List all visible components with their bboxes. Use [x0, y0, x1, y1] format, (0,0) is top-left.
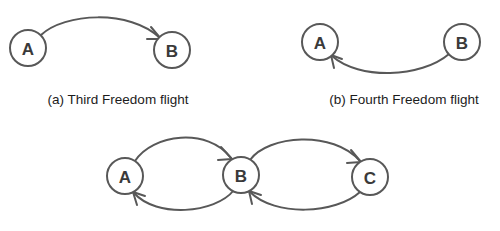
node-label: B: [235, 167, 247, 186]
node-a: A: [107, 158, 143, 194]
panel-b: A B (b) Fourth Freedom flight: [302, 24, 480, 107]
edge-b-to-a: [133, 190, 234, 210]
freedoms-of-the-air-diagram: A B (a) Third Freedom flight A B (b: [0, 0, 500, 231]
node-label: A: [119, 168, 131, 187]
node-a: A: [302, 24, 338, 60]
caption-panel-a: (a) Third Freedom flight: [48, 92, 189, 107]
node-b: B: [223, 157, 259, 193]
node-label: A: [314, 34, 326, 53]
edge-c-to-b: [249, 191, 360, 210]
node-label: C: [364, 169, 376, 188]
edge-curve: [250, 139, 360, 161]
caption-panel-b: (b) Fourth Freedom flight: [329, 92, 479, 107]
panel-c: A B C: [107, 138, 388, 210]
edge-b-to-c: [250, 139, 361, 163]
edge-a-to-b: [135, 138, 232, 161]
node-b: B: [444, 24, 480, 60]
edge-curve: [41, 17, 160, 38]
node-c: C: [352, 159, 388, 195]
edge-curve: [134, 190, 234, 210]
figure-container: A B (a) Third Freedom flight A B (b: [0, 0, 500, 231]
node-label: A: [22, 40, 34, 59]
arrowhead-icon: [218, 147, 232, 160]
panel-a: A B (a) Third Freedom flight: [10, 17, 190, 107]
edge-curve: [250, 192, 360, 210]
node-label: B: [166, 42, 178, 61]
node-a: A: [10, 30, 46, 66]
edge-a-to-b: [41, 17, 161, 39]
edge-b-to-a: [331, 54, 449, 73]
edge-curve: [135, 138, 231, 161]
node-b: B: [154, 32, 190, 68]
node-label: B: [456, 34, 468, 53]
edge-curve: [332, 54, 449, 73]
